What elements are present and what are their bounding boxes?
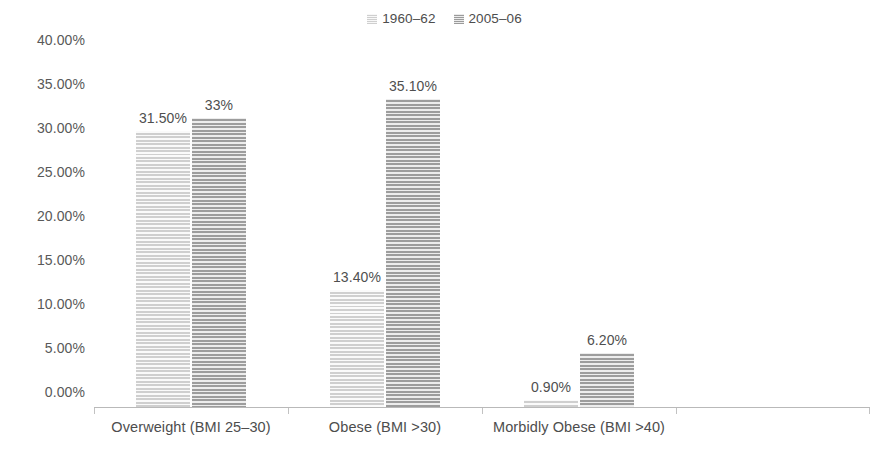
y-axis-tick-label: 35.00% xyxy=(37,76,85,92)
bar-group: 0.90%6.20% xyxy=(482,56,676,408)
bar-group: 31.50%33% xyxy=(94,56,288,408)
y-axis-tick-label: 0.00% xyxy=(45,384,85,400)
y-axis-tick-label: 15.00% xyxy=(37,252,85,268)
bar-value-label: 13.40% xyxy=(333,269,381,285)
bar[interactable]: 13.40% xyxy=(330,290,384,408)
y-axis-tick-label: 20.00% xyxy=(37,208,85,224)
bar-group xyxy=(676,56,870,408)
legend-entry-2005-06: 2005–06 xyxy=(454,11,522,26)
x-axis-category-label: Morbidly Obese (BMI >40) xyxy=(482,419,676,435)
y-axis-tick-label: 10.00% xyxy=(37,296,85,312)
x-axis-tick xyxy=(676,408,677,414)
y-axis-tick-label: 30.00% xyxy=(37,120,85,136)
chart-legend: 1960–62 2005–06 xyxy=(0,11,889,26)
bar-value-label: 0.90% xyxy=(531,379,571,395)
x-axis-category-label: Obese (BMI >30) xyxy=(288,419,482,435)
bar-value-label: 6.20% xyxy=(587,332,627,348)
plot-area: 0.00%5.00%10.00%15.00%20.00%25.00%30.00%… xyxy=(94,56,870,408)
bar[interactable]: 33% xyxy=(192,118,246,408)
bar[interactable]: 35.10% xyxy=(386,99,440,408)
legend-label-1960-62: 1960–62 xyxy=(382,11,435,26)
bar-value-label: 33% xyxy=(205,97,233,113)
legend-entry-1960-62: 1960–62 xyxy=(367,11,435,26)
legend-label-2005-06: 2005–06 xyxy=(469,11,522,26)
x-axis-category-label: Overweight (BMI 25–30) xyxy=(94,419,288,435)
bar-group: 13.40%35.10% xyxy=(288,56,482,408)
x-axis-tick xyxy=(288,408,289,414)
bar-value-label: 31.50% xyxy=(139,110,187,126)
bar[interactable]: 31.50% xyxy=(136,131,190,408)
x-axis-tick xyxy=(94,408,95,414)
y-axis-tick-label: 40.00% xyxy=(37,32,85,48)
x-axis-line xyxy=(94,407,870,408)
legend-swatch-icon-1960-62 xyxy=(367,14,377,24)
bar-value-label: 35.10% xyxy=(389,78,437,94)
legend-swatch-icon-2005-06 xyxy=(454,14,464,24)
y-axis-tick-label: 25.00% xyxy=(37,164,85,180)
x-axis-tick xyxy=(869,408,870,414)
x-axis-tick xyxy=(482,408,483,414)
y-axis-tick-label: 5.00% xyxy=(45,340,85,356)
bar[interactable]: 6.20% xyxy=(580,353,634,408)
